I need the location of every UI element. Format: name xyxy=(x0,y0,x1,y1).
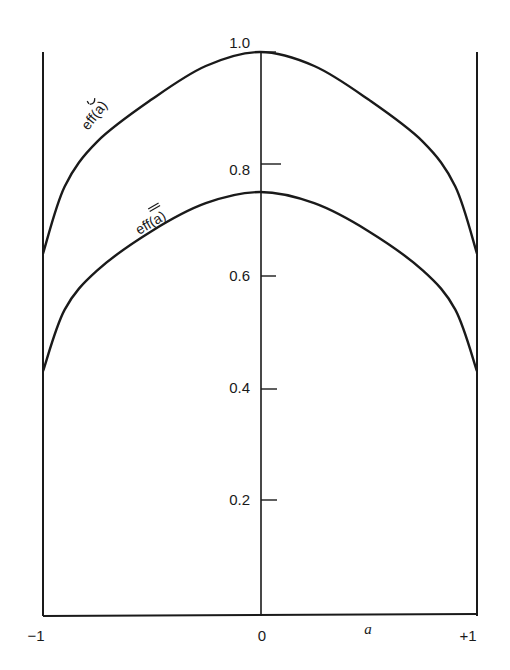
efficiency-chart: 1.0 0.8 0.6 0.4 0.2 −1 0 +1 a eff(a) eff… xyxy=(0,0,510,670)
y-tick-label-0.2: 0.2 xyxy=(229,491,250,508)
curve-eff-tilde xyxy=(43,52,477,254)
curve-eff-double-bar xyxy=(43,192,477,371)
x-axis-label: a xyxy=(364,621,372,637)
x-tick-label-minus1: −1 xyxy=(27,627,44,644)
x-tick-label-plus1: +1 xyxy=(459,627,476,644)
y-tick-label-0.8: 0.8 xyxy=(229,161,250,178)
y-tick-label-0.4: 0.4 xyxy=(229,379,250,396)
y-tick-label-1.0: 1.0 xyxy=(229,34,250,51)
bar-mark-2 xyxy=(148,203,158,209)
y-tick-label-0.6: 0.6 xyxy=(229,267,250,284)
x-tick-label-0: 0 xyxy=(258,627,266,644)
curve-label-upper: eff(a) xyxy=(73,94,110,133)
